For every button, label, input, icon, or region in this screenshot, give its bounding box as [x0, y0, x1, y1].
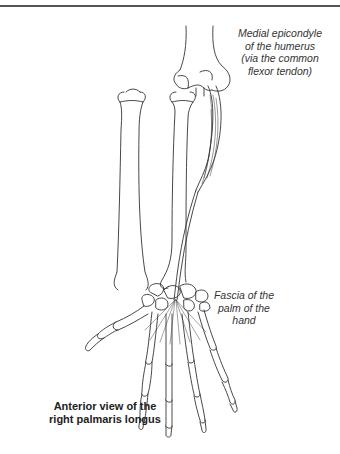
palmaris-longus-muscle: [196, 86, 221, 192]
origin-label-line: (via the common: [222, 52, 338, 65]
caption-line: Anterior view of the: [30, 400, 180, 413]
palmar-fascia: [145, 300, 206, 344]
insertion-label-line: hand: [198, 314, 290, 327]
origin-label-line: of the humerus: [222, 40, 338, 53]
caption-line: right palmaris longus: [30, 413, 180, 426]
radius-bone: [160, 92, 195, 289]
thumb-bones: [85, 306, 148, 351]
figure-caption: Anterior view of the right palmaris long…: [30, 400, 180, 426]
origin-label-line: Medial epicondyle: [222, 27, 338, 40]
origin-label-line: flexor tendon): [222, 65, 338, 78]
insertion-label-line: palm of the: [198, 302, 290, 315]
insertion-label-line: Fascia of the: [198, 289, 290, 302]
insertion-label: Fascia of the palm of the hand: [198, 289, 290, 327]
ulna-bone: [114, 89, 148, 290]
origin-label: Medial epicondyle of the humerus (via th…: [222, 27, 338, 77]
